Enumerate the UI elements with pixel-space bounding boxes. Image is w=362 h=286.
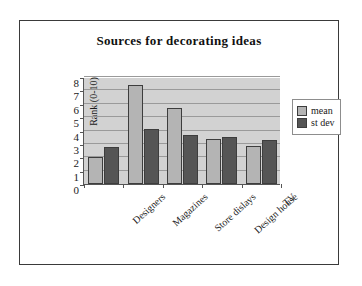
bar-st-dev [183, 135, 198, 184]
x-tick-mark [163, 184, 164, 188]
x-tick-mark [202, 184, 203, 188]
legend-item-st-dev: st dev [297, 118, 335, 128]
x-tick-mark [84, 184, 85, 188]
y-tick-mark [80, 132, 84, 133]
legend-swatch-mean-icon [297, 106, 307, 116]
legend-item-mean: mean [297, 106, 335, 116]
gridline [84, 130, 280, 131]
bar-mean [88, 157, 103, 184]
x-tick-label: Magazines [170, 191, 210, 228]
x-tick-mark [123, 184, 124, 188]
legend: mean st dev [292, 99, 341, 135]
bar-st-dev [222, 137, 237, 184]
y-tick-mark [80, 145, 84, 146]
y-tick-mark [80, 78, 84, 79]
y-axis-title: Rank (0-10) [88, 47, 99, 157]
plot-area: Rank (0-10) 012345678 DesignersMagazines… [83, 78, 280, 185]
y-tick-mark [80, 91, 84, 92]
x-tick-mark [242, 184, 243, 188]
gridline [84, 89, 280, 90]
bar-st-dev [262, 140, 277, 184]
gridline [84, 116, 280, 117]
legend-label-st-dev: st dev [311, 118, 335, 128]
bar-st-dev [104, 147, 119, 184]
x-tick-mark [281, 184, 282, 188]
y-tick-mark [80, 118, 84, 119]
chart-title: Sources for decorating ideas [20, 33, 338, 49]
x-tick-label: Designers [130, 191, 167, 226]
chart-frame: Sources for decorating ideas Rank (0-10)… [19, 20, 339, 265]
bar-mean [206, 139, 221, 184]
gridline [84, 76, 280, 77]
y-tick-mark [80, 158, 84, 159]
legend-swatch-st-dev-icon [297, 118, 307, 128]
y-tick-mark [80, 172, 84, 173]
gridline [84, 103, 280, 104]
bar-mean [128, 85, 143, 184]
bar-st-dev [144, 129, 159, 184]
y-tick-mark [80, 105, 84, 106]
bar-mean [246, 146, 261, 184]
bar-mean [167, 108, 182, 184]
legend-label-mean: mean [311, 106, 333, 116]
x-tick-label: Store dislays [212, 191, 258, 234]
gridline [84, 143, 280, 144]
